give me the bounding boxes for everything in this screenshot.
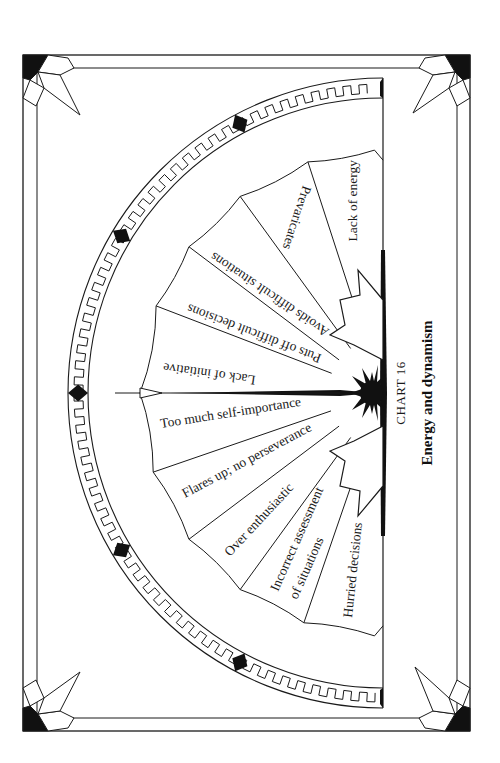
left-notch — [140, 388, 162, 398]
corner-ornament-top-left — [23, 55, 80, 115]
chart-title-block: CHART 16 Energy and dynamism — [393, 320, 435, 466]
segment-label: Hurried decisions — [340, 522, 365, 619]
corner-ornament-bottom-right — [415, 667, 470, 731]
segment-label: Too much self-importance — [159, 394, 302, 431]
segment-label: Lack of initiative — [162, 360, 256, 388]
chart-diagram: Lack of energy Prevaricates Avoids diffi… — [0, 0, 500, 763]
segment-label: Lack of energy — [345, 160, 360, 242]
segment-label: Prevaricates — [280, 184, 315, 251]
corner-ornament-bottom-left — [23, 672, 80, 731]
chart-number: CHART 16 — [393, 361, 408, 424]
corner-ornament-top-right — [413, 55, 470, 113]
chart-title: Energy and dynamism — [419, 320, 435, 466]
labels-lower: Too much self-importance Flares up; no p… — [159, 394, 365, 618]
